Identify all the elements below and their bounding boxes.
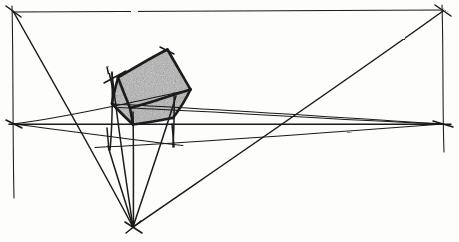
bottom-vp-convergence-lines bbox=[13, 11, 443, 227]
perspective-sketch-canvas bbox=[0, 0, 459, 242]
guide-vertical-to-bottom-vp bbox=[133, 112, 134, 227]
guide-right-vertical-line bbox=[442, 5, 444, 152]
construction-guide-lines bbox=[9, 5, 451, 198]
guide-vpl-to-lower-right bbox=[13, 124, 183, 146]
guide-top-rule-line bbox=[13, 10, 443, 12]
guide-vpr-to-lower-left bbox=[95, 124, 443, 148]
guide-diagonal-bottom-vp-to-topright bbox=[133, 11, 443, 227]
guide-left-vertical-line bbox=[12, 6, 14, 198]
shaded-box-faces bbox=[112, 50, 190, 124]
perspective-sketch-svg bbox=[0, 0, 459, 242]
guide-diagonal-topleft-to-bottom-vp bbox=[13, 11, 133, 227]
